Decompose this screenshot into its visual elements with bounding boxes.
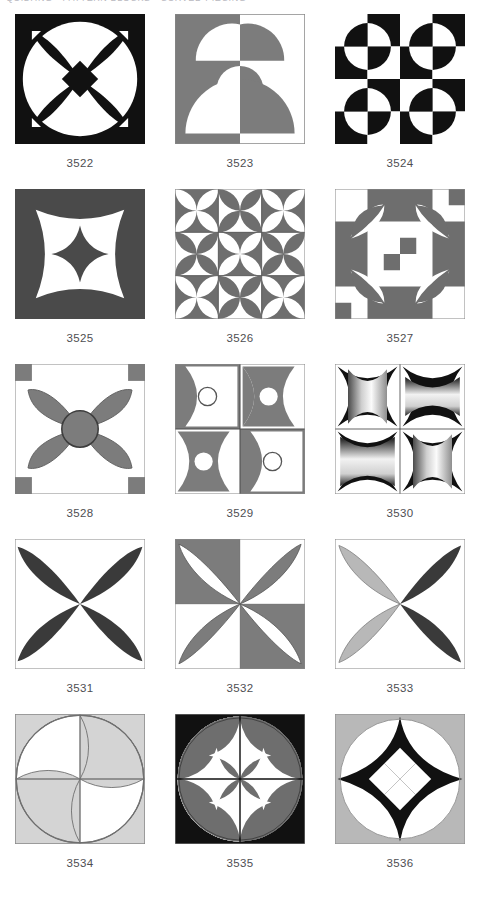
block-cell-3526[interactable]: 3526 (160, 189, 320, 364)
block-cell-3531[interactable]: 3531 (0, 539, 160, 714)
block-art-3533 (335, 539, 465, 669)
block-label: 3523 (227, 158, 254, 170)
block-art-3531 (15, 539, 145, 669)
block-label: 3536 (387, 858, 414, 870)
block-art-3529 (175, 364, 305, 494)
block-art-3523 (175, 14, 305, 144)
block-cell-3532[interactable]: 3532 (160, 539, 320, 714)
block-cell-3530[interactable]: 3530 (320, 364, 480, 539)
block-cell-3524[interactable]: 3524 (320, 14, 480, 189)
block-art-3536 (335, 714, 465, 844)
block-cell-3529[interactable]: 3529 (160, 364, 320, 539)
block-label: 3524 (387, 158, 414, 170)
block-cell-3533[interactable]: 3533 (320, 539, 480, 714)
block-label: 3533 (387, 683, 414, 695)
block-label: 3531 (67, 683, 94, 695)
block-art-3534 (15, 714, 145, 844)
block-label: 3526 (227, 333, 254, 345)
block-cell-3535[interactable]: 3535 (160, 714, 320, 889)
block-art-3525 (15, 189, 145, 319)
block-art-3530 (335, 364, 465, 494)
block-art-3527 (335, 189, 465, 319)
block-art-3532 (175, 539, 305, 669)
block-cell-3522[interactable]: 3522 (0, 14, 160, 189)
block-art-3528 (15, 364, 145, 494)
block-cell-3525[interactable]: 3525 (0, 189, 160, 364)
quilt-block-grid: 3522 3523 (0, 14, 480, 889)
block-label: 3522 (67, 158, 94, 170)
block-cell-3523[interactable]: 3523 (160, 14, 320, 189)
block-art-3535 (175, 714, 305, 844)
block-label: 3535 (227, 858, 254, 870)
block-cell-3536[interactable]: 3536 (320, 714, 480, 889)
block-label: 3534 (67, 858, 94, 870)
block-art-3522 (15, 14, 145, 144)
block-label: 3529 (227, 508, 254, 520)
block-cell-3527[interactable]: 3527 (320, 189, 480, 364)
block-art-3526 (175, 189, 305, 319)
block-art-3524 (335, 14, 465, 144)
block-cell-3528[interactable]: 3528 (0, 364, 160, 539)
block-label: 3530 (387, 508, 414, 520)
block-label: 3532 (227, 683, 254, 695)
block-label: 3527 (387, 333, 414, 345)
block-label: 3528 (67, 508, 94, 520)
block-label: 3525 (67, 333, 94, 345)
block-cell-3534[interactable]: 3534 (0, 714, 160, 889)
page-header-text: QUILTING • PATTERN BLOCKS • CURVED PIECI… (6, 0, 474, 4)
